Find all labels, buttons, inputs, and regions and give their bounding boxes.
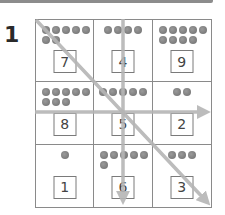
grid-cell: 8 (36, 82, 94, 144)
grid-cell: 6 (94, 145, 152, 207)
counter-dot-icon (52, 26, 60, 34)
counter-dot-icon (140, 151, 148, 159)
counter-dot-icon (72, 26, 80, 34)
number-box[interactable]: 2 (170, 113, 193, 136)
counter-dot-icon (179, 36, 187, 44)
counter-dot-icon (52, 98, 60, 106)
grid-cell: 3 (153, 145, 211, 207)
grid-cell: 9 (153, 20, 211, 82)
counter-dot-icon (134, 26, 142, 34)
dot-group (98, 26, 147, 34)
counter-dot-icon (100, 151, 108, 159)
dot-row (159, 36, 197, 44)
question-number: 1 (4, 24, 19, 46)
counter-dot-icon (120, 151, 128, 159)
counter-dot-icon (169, 26, 177, 34)
dot-row (61, 151, 69, 159)
counter-dot-icon (129, 88, 137, 96)
dot-row (104, 26, 142, 34)
counter-dot-icon (178, 151, 186, 159)
dot-row (42, 98, 70, 106)
dot-row (100, 151, 148, 159)
counter-dot-icon (62, 26, 70, 34)
number-box[interactable]: 6 (111, 176, 134, 199)
number-box[interactable]: 8 (53, 113, 76, 136)
dot-row (42, 36, 60, 44)
grid-cell: 1 (36, 145, 94, 207)
dot-row (99, 88, 147, 96)
top-divider-bar (0, 0, 213, 3)
counter-dot-icon (61, 151, 69, 159)
counter-dot-icon (72, 88, 80, 96)
counter-dot-icon (82, 26, 90, 34)
counter-dot-icon (42, 98, 50, 106)
dot-group (40, 151, 89, 159)
number-box[interactable]: 1 (53, 176, 76, 199)
dot-group (157, 151, 207, 159)
dot-row (173, 88, 191, 96)
counter-dot-icon (183, 88, 191, 96)
number-box[interactable]: 7 (53, 50, 76, 73)
counter-dot-icon (104, 26, 112, 34)
dot-group (98, 88, 147, 96)
counter-dot-icon (62, 98, 70, 106)
counter-dot-icon (173, 88, 181, 96)
counter-dot-icon (168, 151, 176, 159)
counter-dot-icon (188, 151, 196, 159)
number-box[interactable]: 9 (170, 50, 193, 73)
counter-dot-icon (109, 88, 117, 96)
counter-dot-icon (130, 151, 138, 159)
counter-dot-icon (189, 26, 197, 34)
counter-dot-icon (99, 88, 107, 96)
grid-cell: 4 (94, 20, 152, 82)
counter-dot-icon (159, 36, 167, 44)
counter-dot-icon (52, 36, 60, 44)
number-box[interactable]: 3 (170, 176, 193, 199)
grid-cell: 2 (153, 82, 211, 144)
dot-group (157, 26, 207, 44)
counter-dot-icon (82, 88, 90, 96)
dot-group (40, 26, 89, 44)
counter-dot-icon (110, 151, 118, 159)
counter-dot-icon (62, 88, 70, 96)
grid-cell: 5 (94, 82, 152, 144)
counter-dot-icon (42, 36, 50, 44)
counter-dot-icon (199, 26, 207, 34)
counter-dot-icon (42, 88, 50, 96)
counter-dot-icon (159, 26, 167, 34)
magic-square-grid: 7 4 9 8 5 2 1 6 3 (35, 19, 212, 208)
dot-group (157, 88, 207, 96)
counter-dot-icon (42, 26, 50, 34)
dot-row (159, 26, 207, 34)
dot-group (40, 88, 89, 106)
counter-dot-icon (189, 36, 197, 44)
counter-dot-icon (100, 161, 108, 169)
counter-dot-icon (179, 26, 187, 34)
grid-cell: 7 (36, 20, 94, 82)
counter-dot-icon (52, 88, 60, 96)
dot-row (42, 26, 90, 34)
number-box[interactable]: 4 (111, 50, 134, 73)
counter-dot-icon (124, 26, 132, 34)
dot-row (42, 88, 90, 96)
dot-row (168, 151, 196, 159)
counter-dot-icon (114, 26, 122, 34)
number-box[interactable]: 5 (111, 113, 134, 136)
dot-group (98, 151, 147, 169)
counter-dot-icon (139, 88, 147, 96)
counter-dot-icon (119, 88, 127, 96)
counter-dot-icon (169, 36, 177, 44)
dot-row (100, 161, 108, 169)
